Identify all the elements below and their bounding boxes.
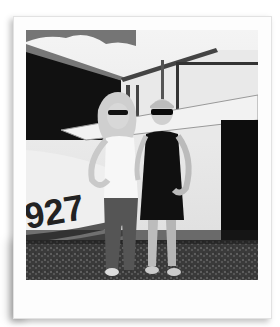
photo: 927: [26, 30, 258, 280]
grass: [26, 240, 258, 280]
polaroid-frame: 927: [13, 16, 272, 319]
photo-scene: 927: [26, 30, 258, 280]
